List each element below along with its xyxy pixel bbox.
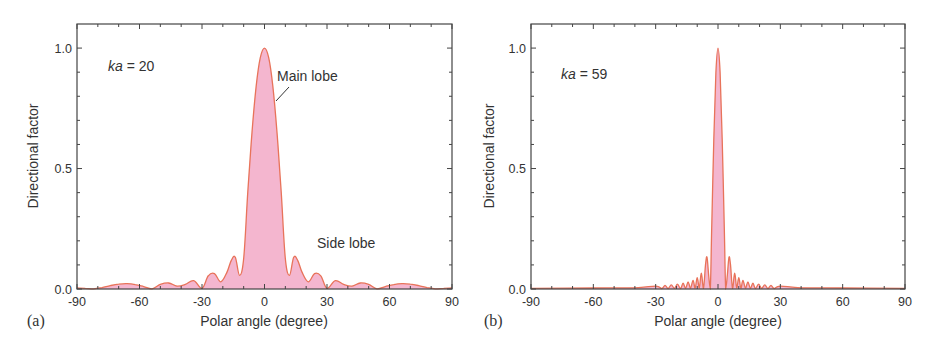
- x-tick-label: 30: [320, 295, 334, 309]
- panel-b-x-axis-label: Polar angle (degree): [654, 313, 782, 329]
- y-tick-label: 1.0: [509, 42, 526, 56]
- main-lobe-annotation: Main lobe: [277, 68, 338, 84]
- y-tick-label: 0.5: [55, 162, 72, 176]
- panel-b-y-axis-label: Directional factor: [481, 103, 497, 208]
- x-tick-label: 0: [261, 295, 268, 309]
- y-tick-label: 1.0: [55, 42, 72, 56]
- ka-symbol: ka: [561, 66, 576, 82]
- panel-a-area-fill: [77, 48, 452, 289]
- main-lobe-leader-line: [276, 87, 289, 101]
- x-tick-label: -30: [647, 295, 665, 309]
- panel-b-area-fill: [531, 48, 905, 289]
- panel-b-label: (b): [484, 312, 503, 330]
- panel-b-y-tick-labels: 0.00.51.0: [509, 42, 526, 297]
- panel-a-chart: -90-60-300306090 0.00.51.0 Polar angle (…: [25, 24, 459, 330]
- y-tick-label: 0.5: [509, 162, 526, 176]
- y-tick-label: 0.0: [55, 283, 72, 297]
- x-tick-label: 0: [715, 295, 722, 309]
- x-tick-label: 90: [445, 295, 459, 309]
- x-tick-label: -60: [584, 295, 602, 309]
- panel-a-ka-parameter: ka = 20: [108, 58, 155, 74]
- x-tick-label: -60: [130, 295, 148, 309]
- x-tick-label: 30: [773, 295, 787, 309]
- x-tick-label: 90: [898, 295, 912, 309]
- panel-a-y-tick-labels: 0.00.51.0: [55, 42, 72, 297]
- panel-a-x-axis-label: Polar angle (degree): [200, 313, 328, 329]
- x-tick-label: -90: [522, 295, 540, 309]
- panel-a-x-tick-labels: -90-60-300306090: [68, 295, 459, 309]
- ka-symbol: ka: [108, 58, 123, 74]
- panel-b-x-tick-labels: -90-60-300306090: [522, 295, 912, 309]
- ka-value: = 20: [123, 58, 155, 74]
- figure-canvas: -90-60-300306090 0.00.51.0 Polar angle (…: [0, 0, 931, 355]
- panel-a-label: (a): [27, 312, 45, 330]
- ka-value: = 59: [576, 66, 608, 82]
- x-tick-label: 60: [836, 295, 850, 309]
- y-tick-label: 0.0: [509, 283, 526, 297]
- panel-b-ka-parameter: ka = 59: [561, 66, 608, 82]
- x-tick-label: -30: [193, 295, 211, 309]
- panel-a-y-axis-label: Directional factor: [25, 103, 41, 208]
- panel-b-chart: -90-60-300306090 0.00.51.0 Polar angle (…: [481, 24, 912, 330]
- x-tick-label: 60: [383, 295, 397, 309]
- x-tick-label: -90: [68, 295, 86, 309]
- side-lobe-annotation: Side lobe: [317, 235, 376, 251]
